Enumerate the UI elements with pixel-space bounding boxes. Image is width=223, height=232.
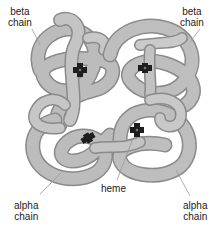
hemoglobin-diagram xyxy=(0,0,223,232)
beta-chain-label-right: beta chain xyxy=(180,6,204,28)
heme-label: heme xyxy=(101,183,126,194)
alpha-chain-label-left: alpha chain xyxy=(14,200,38,222)
beta-chain-label-left: beta chain xyxy=(8,6,32,28)
alpha-chain-label-right: alpha chain xyxy=(183,200,207,222)
heme-group xyxy=(130,123,144,137)
